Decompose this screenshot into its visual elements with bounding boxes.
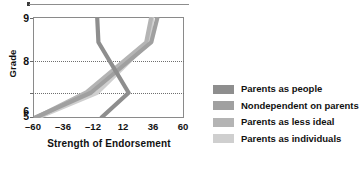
- x-axis-title: Strength of Endorsement: [14, 138, 204, 149]
- y-tick-label-5: 5: [5, 111, 29, 122]
- series-line: [37, 17, 153, 118]
- legend-item-label: Parents as people: [241, 84, 322, 94]
- x-tick-label-36: 36: [136, 122, 170, 132]
- chart-legend: Parents as people Nondependent on parent…: [213, 82, 359, 148]
- legend-item-nondependent-on-parents: Nondependent on parents: [213, 99, 359, 113]
- legend-item-label: Nondependent on parents: [241, 101, 359, 111]
- legend-item-label: Parents as individuals: [241, 134, 341, 144]
- x-tick-label--36: –36: [46, 122, 80, 132]
- chart-figure: Grade 9 8 6 5 –60 –36 –12 12 36 60 Stren…: [0, 0, 359, 172]
- series-lines: [33, 17, 184, 118]
- legend-swatch-icon: [213, 85, 234, 94]
- x-tick-label-12: 12: [106, 122, 140, 132]
- x-tick-label-60: 60: [166, 122, 200, 132]
- legend-swatch-icon: [213, 118, 234, 127]
- legend-item-parents-as-individuals: Parents as individuals: [213, 132, 359, 146]
- y-tick-label-9: 9: [5, 13, 29, 24]
- plot-block: Grade 9 8 6 5 –60 –36 –12 12 36 60 Stren…: [0, 10, 200, 165]
- plot-area: [33, 17, 184, 118]
- legend-item-parents-as-people: Parents as people: [213, 82, 359, 96]
- x-tick-label--12: –12: [76, 122, 110, 132]
- legend-item-parents-as-less-ideal: Parents as less ideal: [213, 115, 359, 129]
- clipped-caption-rule: [29, 4, 189, 5]
- x-tick-label--60: –60: [16, 122, 50, 132]
- legend-swatch-icon: [213, 101, 234, 110]
- legend-item-label: Parents as less ideal: [241, 117, 334, 127]
- legend-swatch-icon: [213, 134, 234, 143]
- series-line: [36, 17, 152, 118]
- y-tick-label-8: 8: [5, 56, 29, 67]
